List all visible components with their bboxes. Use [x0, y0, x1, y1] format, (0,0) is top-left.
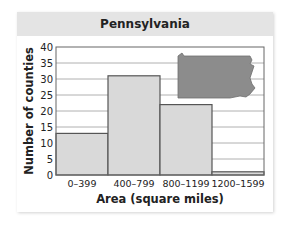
bar-400–799 [108, 76, 160, 175]
y-tick-label: 25 [40, 90, 53, 101]
y-tick-label: 0 [47, 170, 53, 181]
bar-800–1199 [160, 105, 212, 175]
x-tick-label: 800–1199 [162, 178, 209, 189]
x-axis-label: Area (square miles) [96, 192, 224, 206]
y-tick-label: 40 [40, 42, 53, 53]
y-tick-label: 15 [40, 122, 53, 133]
y-tick-label: 30 [40, 74, 53, 85]
x-tick-label: 0–399 [68, 178, 97, 189]
y-tick-label: 10 [40, 138, 53, 149]
x-tick-label: 400–799 [113, 178, 154, 189]
y-axis-label: Number of counties [22, 47, 36, 175]
y-tick-label: 20 [40, 106, 53, 117]
bar-0–399 [56, 133, 108, 175]
x-tick-label: 1200–1599 [211, 178, 264, 189]
y-tick-label: 35 [40, 58, 53, 69]
y-tick-label: 5 [47, 154, 53, 165]
pennsylvania-state-icon [178, 53, 255, 98]
histogram-chart: 05101520253035400–399400–799800–11991200… [0, 0, 283, 230]
